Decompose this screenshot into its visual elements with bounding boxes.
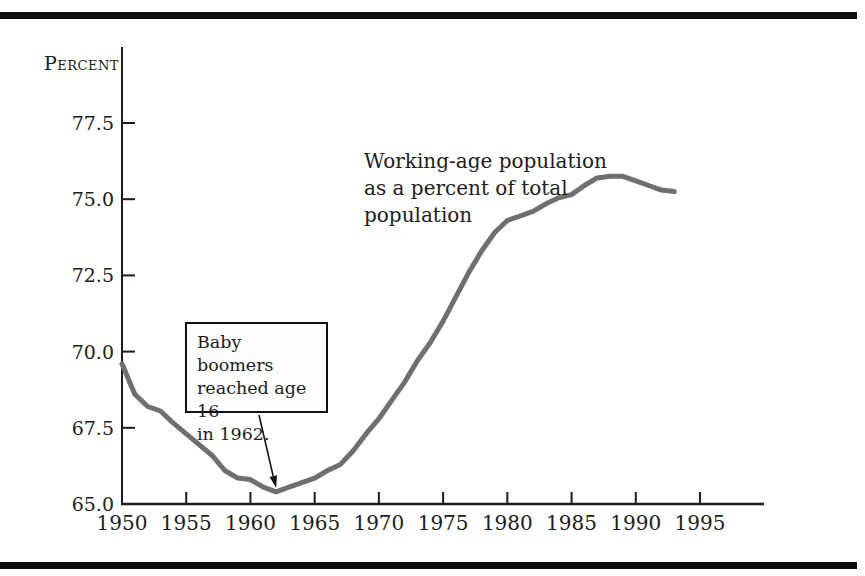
x-tick-label: 1975 [418, 511, 469, 535]
bottom-rule [0, 562, 857, 569]
x-tick-label: 1970 [353, 511, 404, 535]
x-tick-label: 1950 [97, 511, 148, 535]
x-tick-label: 1955 [161, 511, 212, 535]
y-tick-label: 72.5 [72, 264, 114, 286]
line-chart: 65.067.570.072.575.077.51950195519601965… [0, 0, 865, 576]
x-tick-label: 1990 [610, 511, 661, 535]
series-label: Working-age population as a percent of t… [364, 148, 607, 229]
y-tick-label: 70.0 [72, 341, 114, 363]
callout-arrowhead-icon [270, 475, 277, 488]
figure-working-age-population: 65.067.570.072.575.077.51950195519601965… [0, 0, 865, 576]
x-tick-label: 1980 [482, 511, 533, 535]
x-tick-label: 1960 [225, 511, 276, 535]
y-tick-label: 75.0 [72, 188, 114, 210]
y-axis-title: Percent [44, 52, 119, 74]
x-tick-label: 1965 [289, 511, 340, 535]
y-tick-label: 67.5 [72, 417, 114, 439]
x-tick-label: 1995 [675, 511, 726, 535]
x-tick-label: 1985 [546, 511, 597, 535]
callout-baby-boomers: Baby boomers reached age 16 in 1962. [185, 322, 328, 413]
y-tick-label: 77.5 [72, 112, 114, 134]
